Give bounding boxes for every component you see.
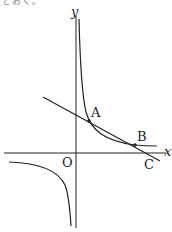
- point-b-label: B: [137, 130, 147, 143]
- origin-label: O: [62, 156, 73, 169]
- x-axis-label: x: [164, 145, 171, 158]
- hyperbola-diagram: [0, 0, 172, 232]
- hyperbola-branch-left: [9, 162, 71, 226]
- hyperbola-branch-right: [79, 19, 157, 146]
- point-c-label: C: [144, 158, 154, 171]
- point-a-label: A: [91, 106, 100, 119]
- y-axis-label: y: [71, 5, 78, 18]
